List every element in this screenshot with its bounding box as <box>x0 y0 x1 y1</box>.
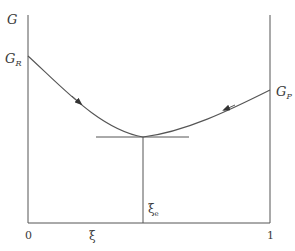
right-value-label: GP <box>276 84 292 101</box>
left-value-sub: R <box>14 59 21 68</box>
gibbs-curve-left <box>28 56 143 137</box>
gibbs-energy-diagram: G GR GP ξe 0 ξ 1 <box>0 0 295 251</box>
gibbs-curve-right <box>143 90 270 137</box>
x-end-label: 1 <box>267 229 274 242</box>
left-value-label: GR <box>5 51 21 68</box>
left-value-main: G <box>5 51 15 66</box>
right-value-main: G <box>276 84 286 99</box>
right-value-sub: P <box>285 92 292 101</box>
x-axis-label: ξ <box>89 229 96 243</box>
y-axis-label: G <box>7 12 17 27</box>
equilibrium-label: ξe <box>148 202 159 218</box>
x-origin-label: 0 <box>25 229 32 242</box>
arrow-reactant-direction-icon <box>72 96 81 104</box>
equilibrium-sub: e <box>155 210 159 218</box>
